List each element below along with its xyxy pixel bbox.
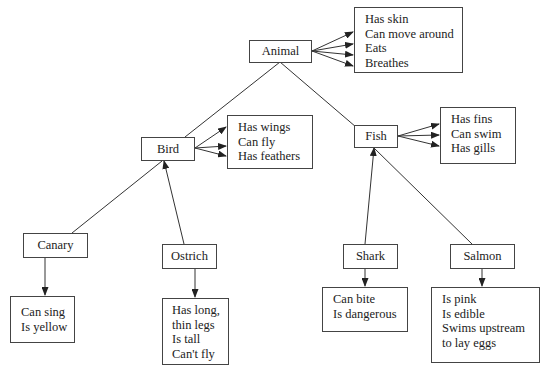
node-label: Shark [356,249,385,264]
node-label: Canary [37,238,73,253]
property: Has skin [365,12,462,27]
properties-canary: Can sing Is yellow [10,296,75,343]
property: Has fins [451,112,515,127]
node-canary: Canary [23,233,88,258]
property: Can swim [451,127,515,142]
node-bird: Bird [141,137,195,161]
property: Can't fly [172,347,228,362]
node-ostrich: Ostrich [162,244,217,269]
edge-shark-fish [365,148,374,244]
properties-ostrich: Has long, thin legs Is tall Can't fly [162,298,229,365]
property: Swims upstream [442,321,539,336]
property: Is dangerous [333,307,407,322]
properties-animal: Has skin Can move around Eats Breathes [354,7,463,73]
node-label: Fish [365,129,387,144]
node-label: Ostrich [171,249,208,264]
property: thin legs [172,318,228,333]
property: Is tall [172,332,228,347]
properties-bird: Has wings Can fly Has feathers [227,115,313,169]
properties-shark: Can bite Is dangerous [322,287,408,332]
property: Has feathers [238,149,312,164]
property: Is yellow [21,320,74,335]
node-label: Salmon [463,249,501,264]
property: Eats [365,41,462,56]
property: Is edible [442,307,539,322]
property: Breathes [365,56,462,71]
node-label: Animal [262,44,300,59]
properties-fish: Has fins Can swim Has gills [440,107,516,164]
property: Can move around [365,27,462,42]
property: Has long, [172,303,228,318]
node-label: Bird [157,142,179,157]
property: Has gills [451,141,515,156]
node-animal: Animal [249,40,312,63]
property: to lay eggs [442,336,539,351]
property: Can sing [21,305,74,320]
properties-salmon: Is pink Is edible Swims upstream to lay … [431,287,540,363]
node-salmon: Salmon [450,244,515,269]
property: Can bite [333,292,407,307]
node-shark: Shark [343,244,398,269]
edge-canary-bird [72,161,162,233]
property: Has wings [238,120,312,135]
node-fish: Fish [354,125,398,148]
property: Is pink [442,292,539,307]
edge-ostrich-bird [164,161,184,244]
property: Can fly [238,135,312,150]
